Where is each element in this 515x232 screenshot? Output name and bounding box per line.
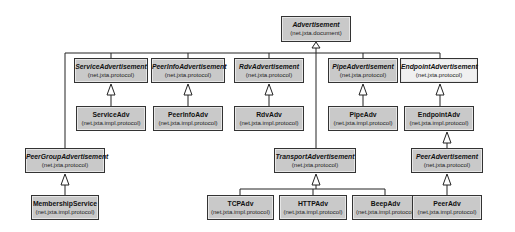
- class-name: PeerAdv: [413, 199, 481, 208]
- class-package: (net.jxta.protocol): [275, 161, 355, 170]
- class-name: PeerAdvertisement: [412, 152, 482, 161]
- class-pipe-adv: PipeAdv (net.jxta.impl.protocol): [328, 106, 398, 131]
- class-name: BeepAdv: [353, 199, 418, 208]
- class-package: (net.jxta.protocol): [235, 71, 303, 80]
- class-beep-adv: BeepAdv (net.jxta.impl.protocol): [352, 195, 419, 220]
- class-package: (net.jxta.protocol): [152, 71, 224, 80]
- class-membership-service: MembershipService (net.jxta.impl.protoco…: [31, 195, 99, 220]
- class-name: Advertisement: [282, 20, 350, 29]
- class-advertisement: Advertisement (net.jxta.document): [281, 16, 351, 42]
- class-package: (net.jxta.impl.protocol): [329, 119, 397, 128]
- class-package: (net.jxta.impl.protocol): [154, 119, 222, 128]
- class-package: (net.jxta.protocol): [329, 71, 397, 80]
- class-name: EndpointAdvertisement: [401, 62, 477, 71]
- class-peerinfo-advertisement: PeerInfoAdvertisement (net.jxta.protocol…: [151, 58, 225, 83]
- class-service-advertisement: ServiceAdvertisement (net.jxta.protocol): [74, 58, 148, 83]
- class-tcp-adv: TCPAdv (net.jxta.impl.protocol): [207, 195, 274, 220]
- class-transport-advertisement: TransportAdvertisement (net.jxta.protoco…: [274, 148, 356, 173]
- class-service-adv: ServiceAdv (net.jxta.impl.protocol): [76, 106, 146, 131]
- class-package: (net.jxta.document): [282, 29, 350, 38]
- class-peerinfo-adv: PeerInfoAdv (net.jxta.impl.protocol): [153, 106, 223, 131]
- class-endpoint-adv: EndpointAdv (net.jxta.impl.protocol): [404, 106, 474, 131]
- class-endpoint-advertisement: EndpointAdvertisement (net.jxta.protocol…: [400, 58, 478, 83]
- class-package: (net.jxta.protocol): [26, 161, 104, 170]
- class-package: (net.jxta.impl.protocol): [405, 119, 473, 128]
- class-package: (net.jxta.impl.protocol): [280, 208, 346, 217]
- class-name: TransportAdvertisement: [275, 152, 355, 161]
- class-peergroup-advertisement: PeerGroupAdvertisement (net.jxta.protoco…: [25, 148, 105, 173]
- class-hierarchy-diagram: Advertisement (net.jxta.document) Servic…: [0, 0, 515, 232]
- class-name: PipeAdv: [329, 110, 397, 119]
- class-package: (net.jxta.impl.protocol): [235, 119, 303, 128]
- class-name: ServiceAdvertisement: [75, 62, 147, 71]
- class-name: PipeAdvertisement: [329, 62, 397, 71]
- class-package: (net.jxta.protocol): [412, 161, 482, 170]
- class-http-adv: HTTPAdv (net.jxta.impl.protocol): [279, 195, 347, 220]
- class-name: EndpointAdv: [405, 110, 473, 119]
- class-rdv-advertisement: RdvAdvertisement (net.jxta.protocol): [234, 58, 304, 83]
- class-package: (net.jxta.impl.protocol): [413, 208, 481, 217]
- class-name: RdvAdv: [235, 110, 303, 119]
- class-name: MembershipService: [32, 199, 98, 208]
- class-peer-adv: PeerAdv (net.jxta.impl.protocol): [412, 195, 482, 220]
- class-name: TCPAdv: [208, 199, 273, 208]
- class-package: (net.jxta.protocol): [401, 71, 477, 80]
- class-name: PeerInfoAdvertisement: [152, 62, 224, 71]
- class-pipe-advertisement: PipeAdvertisement (net.jxta.protocol): [328, 58, 398, 83]
- class-name: RdvAdvertisement: [235, 62, 303, 71]
- class-peer-advertisement: PeerAdvertisement (net.jxta.protocol): [411, 148, 483, 173]
- class-name: PeerGroupAdvertisement: [26, 152, 104, 161]
- class-name: HTTPAdv: [280, 199, 346, 208]
- class-package: (net.jxta.protocol): [75, 71, 147, 80]
- class-package: (net.jxta.impl.protocol): [77, 119, 145, 128]
- class-rdv-adv: RdvAdv (net.jxta.impl.protocol): [234, 106, 304, 131]
- class-package: (net.jxta.impl.protocol): [208, 208, 273, 217]
- class-package: (net.jxta.impl.protocol): [32, 208, 98, 217]
- class-name: PeerInfoAdv: [154, 110, 222, 119]
- class-name: ServiceAdv: [77, 110, 145, 119]
- class-package: (net.jxta.impl.protocol): [353, 208, 418, 217]
